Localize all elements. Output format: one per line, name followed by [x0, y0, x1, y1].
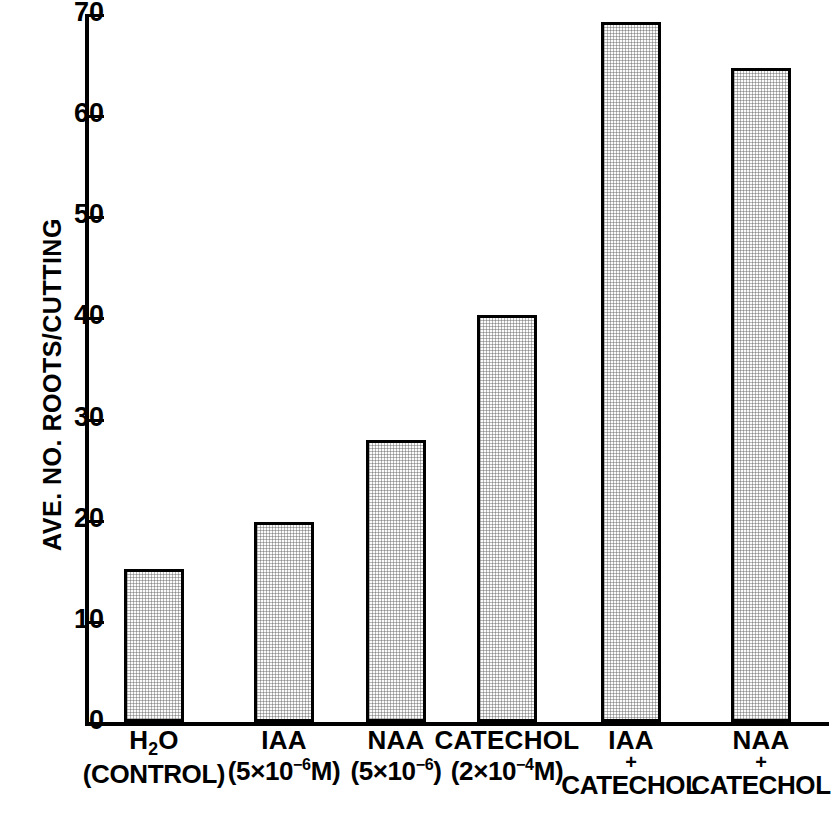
x-label-plus-sign: + — [651, 755, 835, 771]
y-tick-mark — [89, 317, 104, 320]
y-tick-mark — [89, 621, 104, 624]
y-tick-label: 40 — [52, 300, 104, 331]
bar-catechol — [477, 315, 537, 722]
bar-iaa-plus-catechol — [601, 22, 661, 722]
x-label-line1: NAA — [651, 726, 835, 755]
y-tick-mark — [89, 722, 104, 725]
bar-h2o-control — [124, 569, 184, 722]
y-tick-label: 10 — [52, 604, 104, 635]
x-label-naa-plus-catechol: NAA+CATECHOL — [651, 726, 835, 800]
x-label-line2: CATECHOL — [651, 771, 835, 800]
y-tick-mark — [89, 520, 104, 523]
y-tick-mark — [89, 216, 104, 219]
y-tick-label: 50 — [52, 199, 104, 230]
y-tick-mark — [89, 419, 104, 422]
y-tick-label: 20 — [52, 503, 104, 534]
bar-iaa — [254, 522, 314, 722]
y-tick-label: 30 — [52, 402, 104, 433]
y-tick-mark — [89, 115, 104, 118]
bar-naa — [366, 440, 426, 722]
y-tick-mark — [89, 14, 104, 17]
y-tick-label: 60 — [52, 98, 104, 129]
bar-naa-plus-catechol — [731, 68, 791, 722]
x-axis-labels: H2O(CONTROL)IAA(5×10−6M)NAA(5×10−6)CATEC… — [0, 726, 829, 838]
